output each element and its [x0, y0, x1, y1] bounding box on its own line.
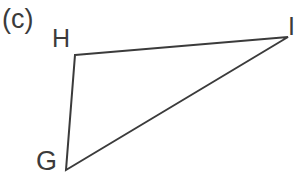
figure-canvas: (c) H I G — [0, 0, 303, 182]
vertex-label-g: G — [36, 148, 57, 175]
triangle-outline — [66, 37, 288, 170]
vertex-label-i: I — [288, 14, 295, 39]
part-label: (c) — [2, 6, 33, 33]
vertex-label-h: H — [52, 26, 70, 51]
